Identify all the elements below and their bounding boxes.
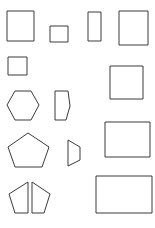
shape-square-large-top-left[interactable]: Square [7,11,34,41]
shape-sheet: SquareSmall SquareNarrow Tall RectangleP… [0,0,155,228]
shape-rectangle-portrait-top-right[interactable]: Portrait Rectangle [119,11,148,45]
shape-rectangle-landscape-middle-right[interactable]: Landscape Rectangle [105,122,150,157]
shape-canvas: SquareSmall SquareNarrow Tall RectangleP… [0,0,155,228]
shape-pentagon-right-pointing-narrow[interactable]: Narrow Right-Pointing Pentagon [55,91,70,120]
shape-square-large-second-row-right[interactable]: Square [110,66,143,99]
shape-rectangle-landscape-bottom-right[interactable]: Landscape Rectangle [96,176,152,213]
shape-square-small-second-row[interactable]: Small Square [8,57,27,75]
shape-square-small-top[interactable]: Small Square [50,26,68,42]
shape-rectangle-narrow-tall-top[interactable]: Narrow Tall Rectangle [88,12,101,41]
